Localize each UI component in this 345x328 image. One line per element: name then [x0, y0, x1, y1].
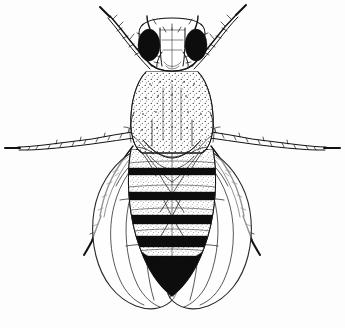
abdomen-band-1: [120, 168, 225, 175]
compound-eye-right: [185, 29, 207, 61]
fly-drawing-canvas: [0, 0, 345, 328]
compound-eye-left: [138, 29, 160, 61]
fly-illustration-figure: [0, 0, 345, 328]
